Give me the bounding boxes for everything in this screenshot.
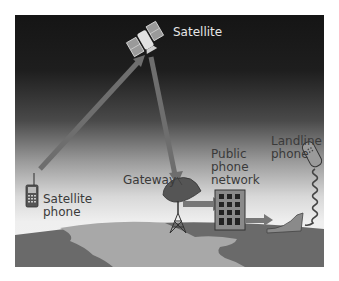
label-public-phone-network: Public phone network: [211, 148, 260, 187]
satellite-phone-icon: [26, 173, 38, 207]
diagram-frame: Satellite Satellite phone Gateway Public…: [15, 15, 324, 267]
label-landline-phone: Landline phone: [271, 135, 322, 161]
label-gateway: Gateway: [123, 174, 176, 187]
label-satellite: Satellite: [173, 26, 222, 39]
satellite-icon: [124, 21, 167, 60]
phone-network-building-icon: [215, 190, 245, 230]
label-satellite-phone: Satellite phone: [43, 193, 92, 219]
uplink-beam-icon: [40, 55, 145, 169]
downlink-beam-icon: [151, 57, 183, 185]
